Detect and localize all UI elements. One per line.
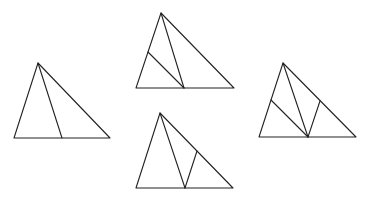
inner-segment bbox=[185, 151, 197, 188]
triangle-1 bbox=[14, 63, 110, 138]
inner-segment bbox=[283, 63, 308, 137]
triangle-2 bbox=[136, 13, 234, 88]
inner-segment bbox=[160, 113, 185, 188]
triangle-outline bbox=[259, 63, 356, 137]
triangle-4 bbox=[259, 63, 356, 137]
triangle-outline bbox=[136, 113, 233, 188]
diagram-canvas bbox=[0, 0, 370, 200]
inner-segment bbox=[271, 100, 308, 137]
triangle-outline bbox=[136, 13, 234, 88]
inner-segment bbox=[308, 101, 320, 137]
triangle-outline bbox=[14, 63, 110, 138]
triangle-3 bbox=[136, 113, 233, 188]
inner-segment bbox=[38, 63, 62, 138]
